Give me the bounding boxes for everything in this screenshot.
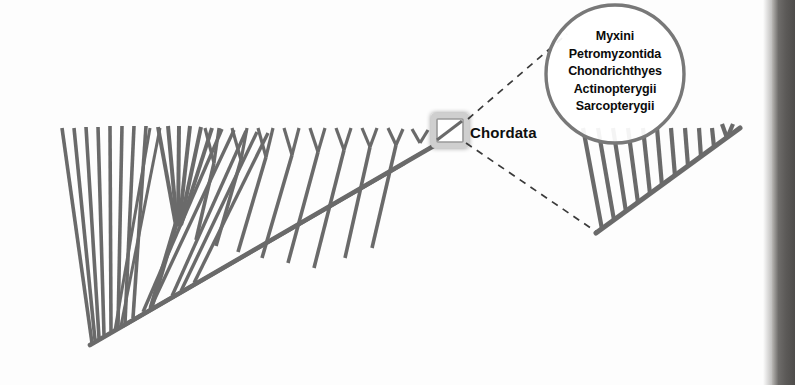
basal-branch-group bbox=[62, 126, 146, 343]
branch-tip bbox=[284, 128, 292, 155]
tip-pair-group bbox=[196, 128, 428, 268]
branch-long bbox=[98, 127, 104, 335]
branch-tip bbox=[266, 128, 273, 157]
taxon-myxini: Myxini bbox=[534, 28, 696, 46]
branch-long bbox=[110, 126, 111, 331]
taxon-chondrichthyes: Chondrichthyes bbox=[534, 63, 696, 81]
inset-branch bbox=[699, 128, 701, 157]
branch-tip bbox=[336, 128, 344, 150]
main-cladogram bbox=[62, 126, 444, 345]
branch-tip bbox=[362, 128, 370, 147]
branch-tip bbox=[310, 128, 318, 152]
chordata-highlight-box[interactable] bbox=[434, 116, 466, 145]
inset-branch bbox=[685, 128, 688, 166]
branch-tip bbox=[396, 129, 403, 145]
figure-page: Chordata Myxini Petromyzontida Chondrich… bbox=[0, 0, 795, 385]
branch-stem bbox=[345, 147, 370, 258]
branch-tip bbox=[412, 129, 420, 143]
branch-tip bbox=[292, 128, 299, 155]
inset-branch bbox=[657, 128, 662, 186]
branch-tip bbox=[318, 128, 325, 152]
branch-stem bbox=[238, 157, 266, 252]
inset-branch bbox=[712, 128, 714, 147]
chordata-label: Chordata bbox=[470, 124, 537, 141]
branch-tip bbox=[344, 128, 351, 150]
callout-taxa-list: Myxini Petromyzontida Chondrichthyes Act… bbox=[534, 28, 696, 116]
branch-ray bbox=[181, 132, 257, 291]
branch-tip bbox=[420, 130, 428, 143]
taxon-petromyzontida: Petromyzontida bbox=[534, 46, 696, 64]
inset-branch bbox=[671, 128, 675, 176]
scan-page-edge bbox=[772, 0, 795, 385]
branch-stem bbox=[288, 152, 318, 263]
branch-stem bbox=[372, 145, 396, 248]
branch-tip bbox=[370, 128, 377, 147]
taxon-actinopterygii: Actinopterygii bbox=[534, 81, 696, 99]
branch-tip bbox=[388, 128, 396, 145]
taxon-sarcopterygii: Sarcopterygii bbox=[534, 98, 696, 116]
scan-edge-gradient bbox=[763, 0, 772, 385]
callout-line-lower bbox=[466, 143, 598, 233]
